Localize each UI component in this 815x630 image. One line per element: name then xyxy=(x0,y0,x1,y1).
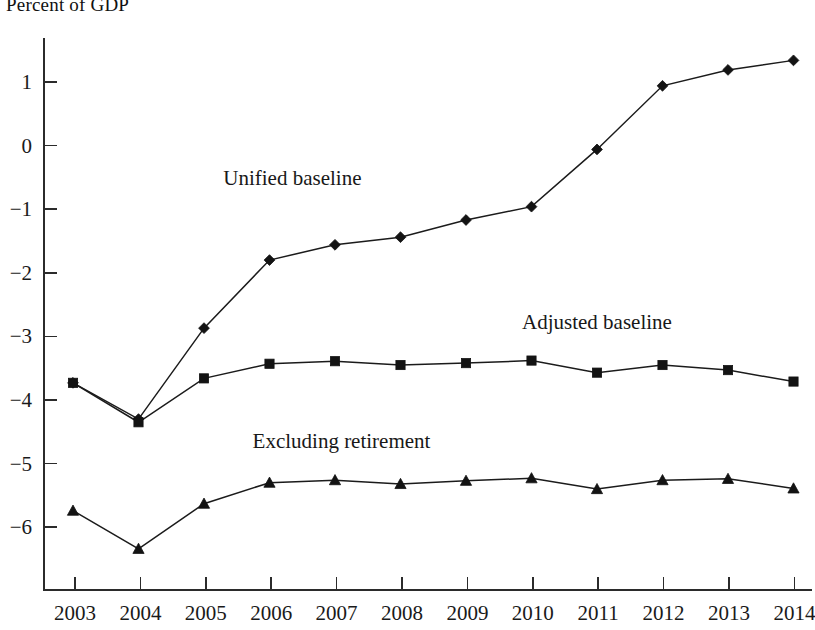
data-point-square xyxy=(265,359,274,368)
y-axis-tick-label: −3 xyxy=(10,324,32,348)
data-point-square xyxy=(134,418,143,427)
chart-series-group xyxy=(67,55,799,553)
series-label-3: Excluding retirement xyxy=(253,429,431,453)
x-axis-tick-label: 2011 xyxy=(578,601,619,625)
data-point-diamond xyxy=(723,65,734,76)
chart-container: Percent of GDP Unified baselineAdjusted … xyxy=(0,0,815,630)
data-point-square xyxy=(658,360,667,369)
x-axis-tick-label: 2009 xyxy=(446,601,488,625)
x-axis-tick-label: 2003 xyxy=(54,601,96,625)
x-axis-labels: 2003200420052006200720082009201020112012… xyxy=(54,601,815,625)
data-point-diamond xyxy=(461,215,472,226)
series-label-2: Adjusted baseline xyxy=(522,310,672,334)
data-point-square xyxy=(789,377,798,386)
y-axis-tick-label: 0 xyxy=(22,134,33,158)
x-axis-tick-label: 2010 xyxy=(512,601,554,625)
chart-series-1 xyxy=(68,55,799,425)
data-point-square xyxy=(592,368,601,377)
y-axis-tick-label: −4 xyxy=(10,388,33,412)
series-annotations: Unified baselineAdjusted baselineExcludi… xyxy=(223,166,672,453)
y-axis-tick-label: 1 xyxy=(22,70,33,94)
data-point-triangle xyxy=(67,505,78,515)
data-point-square xyxy=(330,357,339,366)
chart-axes xyxy=(44,38,812,590)
x-axis-tick-label: 2007 xyxy=(316,601,358,625)
series-line xyxy=(73,361,794,423)
data-point-diamond xyxy=(788,55,799,66)
y-axis-labels: 10−1−2−3−4−5−6 xyxy=(10,70,33,539)
y-axis-tick-label: −2 xyxy=(10,261,32,285)
series-label-1: Unified baseline xyxy=(223,166,361,190)
chart-series-2 xyxy=(68,356,798,427)
x-axis-tick-label: 2005 xyxy=(185,601,227,625)
data-point-square xyxy=(199,374,208,383)
data-point-diamond xyxy=(395,232,406,243)
x-axis-tick-label: 2004 xyxy=(119,601,162,625)
data-point-square xyxy=(68,378,77,387)
data-point-diamond xyxy=(330,239,341,250)
y-axis-tick-label: −5 xyxy=(10,452,32,476)
data-point-square xyxy=(461,359,470,368)
y-axis-ticks xyxy=(44,82,57,527)
x-axis-tick-label: 2014 xyxy=(773,601,815,625)
data-point-square xyxy=(396,360,405,369)
line-chart-plot: Unified baselineAdjusted baselineExcludi… xyxy=(0,0,815,630)
chart-series-3 xyxy=(67,473,799,554)
series-line xyxy=(73,478,794,549)
data-point-square xyxy=(527,356,536,365)
x-axis-ticks xyxy=(75,577,794,590)
series-line xyxy=(73,60,794,419)
x-axis-tick-label: 2012 xyxy=(643,601,685,625)
x-axis-tick-label: 2008 xyxy=(381,601,423,625)
x-axis-tick-label: 2006 xyxy=(250,601,292,625)
data-point-triangle xyxy=(133,543,144,553)
x-axis-tick-label: 2013 xyxy=(708,601,750,625)
y-axis-tick-label: −1 xyxy=(10,197,32,221)
data-point-square xyxy=(723,366,732,375)
axis-lines xyxy=(44,38,812,590)
y-axis-tick-label: −6 xyxy=(10,515,32,539)
